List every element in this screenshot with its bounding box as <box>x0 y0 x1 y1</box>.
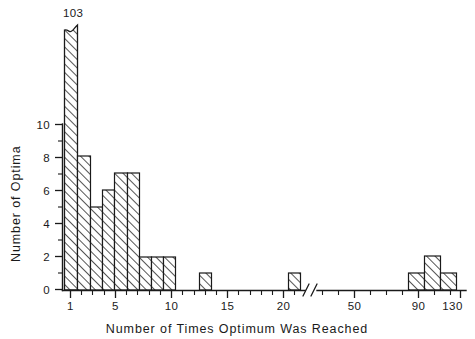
bar-value-annotation-103: 103 <box>63 7 83 19</box>
bar-120 <box>425 256 441 290</box>
y-axis-title: Number of Optima <box>9 145 23 262</box>
bar-4 <box>103 190 115 290</box>
bar-2 <box>78 156 91 290</box>
x-tick-label-50: 50 <box>348 300 362 312</box>
y-tick-label-8: 8 <box>43 152 50 164</box>
y-tick-label-0: 0 <box>43 284 50 296</box>
bar-110 <box>409 273 425 290</box>
bar-8 <box>152 257 164 290</box>
bar-12 <box>200 273 212 290</box>
histogram-figure: 10 8 6 4 2 0 Number of Optima <box>0 0 475 339</box>
y-tick-label-4: 4 <box>43 218 50 230</box>
bar-20 <box>289 273 301 290</box>
y-tick-label-2: 2 <box>43 251 50 263</box>
x-tick-label-130: 130 <box>442 300 462 312</box>
bar-shape <box>65 25 78 290</box>
y-tick-label-10: 10 <box>36 119 50 131</box>
bar-1 <box>65 25 78 290</box>
bar-6 <box>128 173 140 290</box>
bar-9 <box>164 257 176 290</box>
x-tick-label-90: 90 <box>412 300 426 312</box>
y-tick-label-6: 6 <box>43 185 50 197</box>
bar-130 <box>441 273 457 290</box>
bar-3 <box>91 207 103 290</box>
x-axis-title: Number of Times Optimum Was Reached <box>106 322 368 336</box>
x-tick-label-15: 15 <box>221 300 235 312</box>
bar-7 <box>140 257 152 290</box>
x-tick-label-5: 5 <box>112 300 119 312</box>
x-tick-label-1: 1 <box>67 300 74 312</box>
x-tick-label-10: 10 <box>165 300 179 312</box>
bar-5 <box>115 173 128 290</box>
x-tick-label-20: 20 <box>277 300 291 312</box>
